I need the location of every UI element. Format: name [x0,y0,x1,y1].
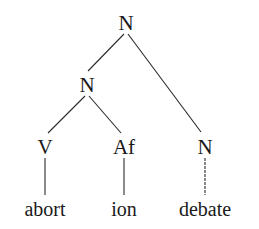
leaf-ion: ion [111,199,137,219]
node-root-n: N [118,13,133,33]
edge-root-to-right-n [128,34,201,132]
edge-left-n-to-af [89,96,121,133]
node-compound-left-n: N [79,75,94,95]
edge-root-to-left-n [88,34,124,71]
node-right-n: N [197,137,212,157]
edge-left-n-to-v [48,96,85,133]
leaf-debate: debate [179,199,231,219]
node-verb-v: V [37,137,52,157]
leaf-abort: abort [24,199,65,219]
node-affix-af: Af [113,137,135,157]
